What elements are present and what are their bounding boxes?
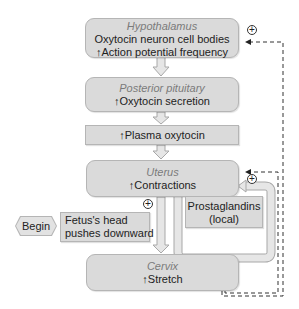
plasma-oxytocin-line1: ↑Plasma oxytocin bbox=[86, 129, 238, 142]
cervix-box: Cervix ↑Stretch bbox=[86, 254, 239, 291]
uterus-box: Uterus ↑Contractions bbox=[86, 160, 239, 197]
hollow-arrow-pituitary-to-plasma bbox=[153, 112, 169, 124]
uterus-title: Uterus bbox=[87, 166, 238, 179]
hollow-arrow-uterus-to-cervix bbox=[153, 197, 169, 253]
posterior-pituitary-title: Posterior pituitary bbox=[86, 82, 238, 95]
fetus-line1: Fetus's head bbox=[65, 214, 149, 227]
fetus-line2: pushes downward bbox=[65, 227, 149, 240]
hypothalamus-title: Hypothalamus bbox=[86, 20, 238, 33]
posterior-pituitary-box: Posterior pituitary ↑Oxytocin secretion bbox=[85, 77, 239, 112]
positive-feedback-icon-fetus: + bbox=[143, 199, 153, 209]
cervix-line1: ↑Stretch bbox=[87, 273, 238, 286]
hypothalamus-line2: ↑Action potential frequency bbox=[86, 46, 238, 59]
begin-label: Begin bbox=[16, 217, 56, 235]
cervix-title: Cervix bbox=[87, 260, 238, 273]
hypothalamus-line1: Oxytocin neuron cell bodies bbox=[86, 33, 238, 46]
uterus-line1: ↑Contractions bbox=[87, 179, 238, 192]
plasma-oxytocin-box: ↑Plasma oxytocin bbox=[85, 125, 239, 145]
positive-feedback-icon-hypothalamus: + bbox=[247, 25, 257, 35]
prostaglandins-line1: Prostaglandins bbox=[186, 200, 262, 213]
hollow-arrow-hypothalamus-to-pituitary bbox=[153, 57, 169, 76]
prostaglandins-box: Prostaglandins (local) bbox=[185, 196, 263, 228]
hypothalamus-box: Hypothalamus Oxytocin neuron cell bodies… bbox=[85, 18, 239, 58]
hollow-arrow-plasma-to-uterus bbox=[153, 145, 169, 159]
fetus-head-box: Fetus's head pushes downward bbox=[60, 212, 150, 242]
positive-feedback-icon-uterus: + bbox=[247, 174, 257, 184]
prostaglandins-line2: (local) bbox=[186, 213, 262, 226]
posterior-pituitary-line1: ↑Oxytocin secretion bbox=[86, 95, 238, 108]
